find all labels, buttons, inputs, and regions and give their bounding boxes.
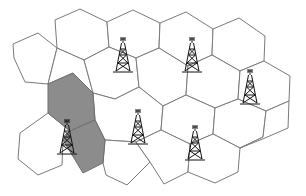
diagram-canvas — [0, 0, 306, 196]
cell-network-diagram — [0, 0, 306, 196]
